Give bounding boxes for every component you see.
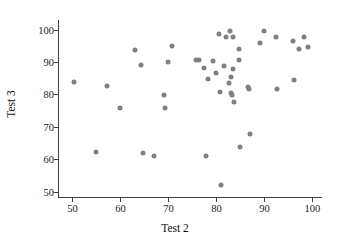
data-point (230, 92, 235, 97)
data-point (71, 80, 76, 85)
y-tick-label: 80 (44, 89, 55, 100)
x-axis-tick-labels: 5060708090100 (58, 203, 322, 217)
data-point (163, 106, 168, 111)
x-tick-mark (216, 198, 217, 202)
data-point (226, 81, 231, 86)
plot-area (58, 20, 322, 198)
x-tick-label: 80 (211, 203, 222, 214)
x-tick-label: 50 (67, 203, 78, 214)
data-point (229, 75, 234, 80)
data-point (238, 144, 243, 149)
data-point (201, 65, 206, 70)
x-tick-label: 60 (115, 203, 126, 214)
data-point (162, 92, 167, 97)
y-tick-label: 90 (44, 57, 55, 68)
y-tick-mark (54, 192, 58, 193)
x-tick-mark (72, 198, 73, 202)
y-tick-mark (54, 94, 58, 95)
data-point (248, 131, 253, 136)
x-tick-label: 100 (305, 203, 321, 214)
data-point (218, 182, 223, 187)
data-point (257, 41, 262, 46)
x-tick-label: 70 (163, 203, 174, 214)
data-point (214, 70, 219, 75)
y-axis-tick-labels: 5060708090100 (28, 20, 54, 198)
y-tick-label: 70 (44, 121, 55, 132)
y-tick-mark (54, 159, 58, 160)
scatter-plot-figure: 5060708090100 5060708090100 Test 2 Test … (0, 0, 350, 248)
data-point (274, 87, 279, 92)
data-point (204, 153, 209, 158)
data-point (118, 106, 123, 111)
data-point (291, 77, 296, 82)
data-point (227, 28, 232, 33)
x-tick-mark (264, 198, 265, 202)
y-tick-label: 60 (44, 154, 55, 165)
data-point (166, 60, 171, 65)
y-axis-line (58, 20, 59, 198)
data-point (222, 63, 227, 68)
data-point (94, 150, 99, 155)
x-tick-label: 90 (259, 203, 270, 214)
x-axis-line (58, 197, 322, 198)
data-point (139, 63, 144, 68)
x-tick-mark (168, 198, 169, 202)
data-point (197, 57, 202, 62)
x-tick-mark (120, 198, 121, 202)
data-point (216, 32, 221, 37)
data-point (230, 67, 235, 72)
y-tick-mark (54, 30, 58, 31)
x-tick-mark (312, 198, 313, 202)
y-tick-label: 50 (44, 186, 55, 197)
data-point (210, 58, 215, 63)
y-tick-label: 100 (38, 24, 54, 35)
data-point (273, 34, 278, 39)
data-point (231, 34, 236, 39)
data-point (132, 47, 137, 52)
y-tick-mark (54, 127, 58, 128)
y-axis-title: Test 3 (5, 69, 17, 139)
data-point (290, 38, 295, 43)
data-point (169, 44, 174, 49)
data-point (301, 35, 306, 40)
x-axis-title: Test 2 (0, 222, 350, 234)
data-point (297, 47, 302, 52)
data-point (206, 77, 211, 82)
data-point (246, 87, 251, 92)
data-point (151, 153, 156, 158)
data-point (262, 29, 267, 34)
y-tick-mark (54, 62, 58, 63)
data-point (224, 35, 229, 40)
data-point (305, 44, 310, 49)
data-point (105, 84, 110, 89)
data-point (237, 47, 242, 52)
data-point (236, 58, 241, 63)
data-point (141, 150, 146, 155)
data-point (231, 99, 236, 104)
data-point (217, 89, 222, 94)
